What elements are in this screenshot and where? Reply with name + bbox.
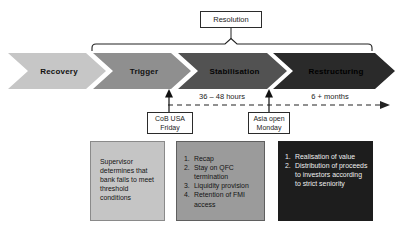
phase-label-recovery: Recovery <box>28 67 86 76</box>
list-item-text: Liquidity provision <box>194 181 260 190</box>
list-item-text: Stay on QFC termination <box>194 163 260 181</box>
detail-box-supervisor: Supervisor determines that bank fails to… <box>90 141 165 221</box>
list-item: 2. Distribution of proceeds to investors… <box>285 161 369 188</box>
list-item-number: 2. <box>184 163 194 181</box>
milestone-box-cob-usa-friday: CoB USA Friday <box>147 112 193 134</box>
list-item-text: Recap <box>194 154 260 163</box>
milestone-box-asia-open-monday: Asia open Monday <box>248 112 290 134</box>
list-item: 2. Stay on QFC termination <box>184 163 260 181</box>
resolution-label: Resolution <box>213 15 248 24</box>
milestone-arrow-cob-head-icon <box>165 89 173 98</box>
list-item: 1. Realisation of value <box>285 152 369 161</box>
phase-chevron-stabilisation: Stabilisation <box>178 53 287 89</box>
detail-box-supervisor-text: Supervisor determines that bank fails to… <box>100 157 157 203</box>
interval-label-6-plus-months: 6 + months <box>311 92 348 101</box>
list-item-text: Retention of FMI access <box>194 190 260 208</box>
list-item-number: 3. <box>184 181 194 190</box>
list-item-number: 1. <box>285 152 295 161</box>
list-item: 3. Liquidity provision <box>184 181 260 190</box>
list-item-text: Realisation of value <box>295 152 369 161</box>
milestone-arrow-asia-head-icon <box>265 89 273 98</box>
list-item-number: 1. <box>184 154 194 163</box>
bank-resolution-timeline-diagram: Resolution Recovery Trigger Stabilisatio… <box>0 0 401 234</box>
detail-box-restructuring-outcomes: 1. Realisation of value 2. Distribution … <box>278 141 373 221</box>
phase-chevron-recovery: Recovery <box>8 53 106 89</box>
phase-chevron-restructuring: Restructuring <box>273 53 395 89</box>
interval-label-36-48-hours: 36 – 48 hours <box>199 92 245 101</box>
phase-chevron-trigger: Trigger <box>93 53 191 89</box>
milestone-asia-line2: Monday <box>257 123 282 132</box>
list-item: 4. Retention of FMI access <box>184 190 260 208</box>
phase-label-restructuring: Restructuring <box>296 67 371 76</box>
list-item-number: 2. <box>285 161 295 188</box>
milestone-cob-line2: Friday <box>160 123 179 132</box>
timeline-arrowhead-icon <box>380 101 390 109</box>
detail-box-stabilisation-actions: 1. Recap 2. Stay on QFC termination 3. L… <box>176 141 265 221</box>
list-item: 1. Recap <box>184 154 260 163</box>
milestone-cob-line1: CoB USA <box>155 114 185 123</box>
milestone-asia-line1: Asia open <box>253 114 284 123</box>
resolution-bracket <box>92 39 372 52</box>
resolution-label-box: Resolution <box>200 11 262 28</box>
phase-label-stabilisation: Stabilisation <box>197 67 267 76</box>
phase-label-trigger: Trigger <box>118 67 167 76</box>
list-item-text: Distribution of proceeds to investors ac… <box>295 161 369 188</box>
list-item-number: 4. <box>184 190 194 208</box>
